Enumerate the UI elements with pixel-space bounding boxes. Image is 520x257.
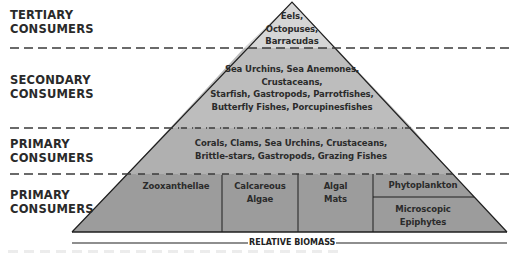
compartment-line: Phytoplankton xyxy=(373,179,473,192)
compartment-zooxanthellae: Zooxanthellae xyxy=(130,180,222,193)
organism-line: Sea Urchins, Sea Anemones, xyxy=(190,63,394,76)
secondary-organisms: Sea Urchins, Sea Anemones, Crustaceans, … xyxy=(190,63,394,113)
trophic-pyramid-diagram: TERTIARY CONSUMERS SECONDARY CONSUMERS P… xyxy=(0,0,520,257)
compartment-line: Epiphytes xyxy=(373,216,473,229)
organism-line: Brittle-stars, Gastropods, Grazing Fishe… xyxy=(170,150,412,163)
compartment-line: Algae xyxy=(222,193,298,206)
level-label-tertiary: TERTIARY CONSUMERS xyxy=(10,8,94,36)
compartment-line: Mats xyxy=(298,193,373,206)
compartment-algal-mats: Algal Mats xyxy=(298,180,373,205)
compartment-line: Calcareous xyxy=(222,180,298,193)
label-line: PRIMARY xyxy=(10,188,94,202)
organism-line: Barracudas xyxy=(252,35,332,48)
label-line: SECONDARY xyxy=(10,73,94,87)
compartment-microscopic-epiphytes: Microscopic Epiphytes xyxy=(373,203,473,228)
organism-line: Butterfly Fishes, Porcupinesfishes xyxy=(190,101,394,114)
tertiary-organisms: Eels, Octopuses, Barracudas xyxy=(252,10,332,48)
compartment-line: Algal xyxy=(298,180,373,193)
organism-line: Octopuses, xyxy=(252,23,332,36)
compartment-line: Microscopic xyxy=(373,203,473,216)
relative-biomass-label: RELATIVE BIOMASS xyxy=(248,238,336,248)
label-line: TERTIARY xyxy=(10,8,94,22)
figure-caption-cutoff xyxy=(8,250,338,253)
label-line: CONSUMERS xyxy=(10,22,94,36)
compartment-calcareous-algae: Calcareous Algae xyxy=(222,180,298,205)
compartment-phytoplankton: Phytoplankton xyxy=(373,179,473,192)
organism-line: Eels, xyxy=(252,10,332,23)
organism-line: Corals, Clams, Sea Urchins, Crustaceans, xyxy=(170,137,412,150)
label-line: CONSUMERS xyxy=(10,87,94,101)
label-line: CONSUMERS xyxy=(10,151,94,165)
label-line: CONSUMERS xyxy=(10,202,94,216)
label-line: PRIMARY xyxy=(10,137,94,151)
primary-consumer-organisms: Corals, Clams, Sea Urchins, Crustaceans,… xyxy=(170,137,412,162)
organism-line: Starfish, Gastropods, Parrotfishes, xyxy=(190,88,394,101)
compartment-line: Zooxanthellae xyxy=(130,180,222,193)
level-label-secondary: SECONDARY CONSUMERS xyxy=(10,73,94,101)
organism-line: Crustaceans, xyxy=(190,76,394,89)
level-label-producers: PRIMARY CONSUMERS xyxy=(10,188,94,216)
level-label-primary-consumers: PRIMARY CONSUMERS xyxy=(10,137,94,165)
